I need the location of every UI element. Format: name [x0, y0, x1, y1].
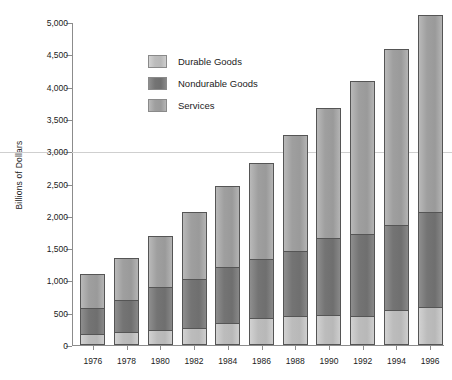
x-axis-tick-mark	[329, 346, 330, 350]
y-axis-tick-label: 3,500	[47, 115, 68, 125]
x-axis-tick-label: 1982	[185, 356, 204, 366]
bar-group[interactable]	[114, 259, 139, 345]
x-axis-tick-label: 1996	[421, 356, 440, 366]
bar-group[interactable]	[80, 275, 105, 345]
bar-segment[interactable]	[80, 274, 105, 309]
x-axis-tick-label: 1978	[117, 356, 136, 366]
stacked-bar-chart: Billions of Dollars 5,0004,5004,0003,500…	[0, 0, 452, 380]
x-axis-tick-mark	[262, 346, 263, 350]
x-axis-tick-mark	[396, 346, 397, 350]
y-axis-title: Billions of Dollars	[8, 110, 28, 240]
y-axis-tick-label: 1,000	[47, 276, 68, 286]
legend-swatch	[148, 55, 167, 68]
x-axis-tick-mark	[93, 346, 94, 350]
x-axis-tick-label: 1990	[319, 356, 338, 366]
bar-segment[interactable]	[148, 330, 173, 345]
x-axis-tick-label: 1992	[353, 356, 372, 366]
bar-segment[interactable]	[316, 315, 341, 345]
y-axis-tick-label: 0	[63, 341, 68, 351]
x-axis-tick-mark	[194, 346, 195, 350]
y-axis-title-label: Billions of Dollars	[13, 141, 23, 210]
bar-segment[interactable]	[384, 49, 409, 225]
x-axis-line	[72, 345, 444, 346]
legend-item[interactable]: Nondurable Goods	[148, 72, 258, 94]
x-axis-tick-label: 1980	[151, 356, 170, 366]
bar-group[interactable]	[384, 50, 409, 345]
x-axis-tick-label: 1984	[218, 356, 237, 366]
legend-item-label: Nondurable Goods	[178, 78, 258, 89]
x-axis-tick-label: 1986	[252, 356, 271, 366]
bar-segment[interactable]	[283, 316, 308, 345]
y-axis-tick-label: 1,500	[47, 244, 68, 254]
bar-segment[interactable]	[182, 279, 207, 329]
bar-group[interactable]	[182, 213, 207, 345]
bar-segment[interactable]	[350, 316, 375, 345]
y-axis-tick-label: 4,000	[47, 83, 68, 93]
bar-segment[interactable]	[350, 234, 375, 317]
bar-segment[interactable]	[215, 186, 240, 268]
legend-item[interactable]: Services	[148, 94, 258, 116]
x-axis-tick-mark	[430, 346, 431, 350]
bar-segment[interactable]	[80, 308, 105, 335]
bar-segment[interactable]	[249, 318, 274, 345]
legend-item-label: Durable Goods	[178, 56, 242, 67]
bar-segment[interactable]	[114, 332, 139, 345]
y-axis-tick-label: 5,000	[47, 18, 68, 28]
bar-group[interactable]	[215, 187, 240, 345]
bar-segment[interactable]	[182, 328, 207, 345]
bar-group[interactable]	[148, 237, 173, 345]
bar-segment[interactable]	[80, 334, 105, 345]
gridline-extension-right	[444, 152, 452, 153]
plot-area: 5,0004,5004,0003,5003,0002,5002,0001,500…	[72, 23, 444, 346]
bar-segment[interactable]	[148, 236, 173, 288]
x-axis-tick-label: 1994	[387, 356, 406, 366]
x-axis-tick-mark	[127, 346, 128, 350]
bar-segment[interactable]	[249, 259, 274, 319]
bar-segment[interactable]	[316, 238, 341, 316]
bars-layer	[73, 23, 444, 345]
chart-legend: Durable GoodsNondurable GoodsServices	[148, 50, 258, 116]
bar-segment[interactable]	[418, 212, 443, 308]
bar-segment[interactable]	[283, 135, 308, 252]
bar-segment[interactable]	[114, 258, 139, 301]
x-axis-tick-label: 1988	[286, 356, 305, 366]
bar-segment[interactable]	[384, 225, 409, 311]
bar-segment[interactable]	[215, 323, 240, 345]
bar-segment[interactable]	[283, 251, 308, 317]
legend-swatch	[148, 99, 167, 112]
bar-segment[interactable]	[114, 300, 139, 333]
y-axis-tick-label: 2,500	[47, 180, 68, 190]
y-axis-tick-label: 500	[54, 309, 68, 319]
bar-group[interactable]	[418, 16, 443, 345]
legend-item[interactable]: Durable Goods	[148, 50, 258, 72]
bar-segment[interactable]	[182, 212, 207, 280]
bar-group[interactable]	[350, 82, 375, 345]
bar-segment[interactable]	[148, 287, 173, 331]
x-axis-tick-mark	[160, 346, 161, 350]
x-axis-tick-mark	[228, 346, 229, 350]
y-axis-tick-label: 2,000	[47, 212, 68, 222]
bar-segment[interactable]	[418, 307, 443, 345]
bar-group[interactable]	[249, 164, 274, 345]
bar-segment[interactable]	[350, 81, 375, 234]
bar-segment[interactable]	[418, 15, 443, 213]
y-axis-tick-label: 4,500	[47, 50, 68, 60]
bar-segment[interactable]	[316, 108, 341, 239]
y-axis-tick-label: 3,000	[47, 147, 68, 157]
bar-segment[interactable]	[249, 163, 274, 260]
legend-item-label: Services	[178, 100, 214, 111]
bar-group[interactable]	[316, 109, 341, 345]
bar-segment[interactable]	[215, 267, 240, 324]
x-axis-tick-label: 1976	[83, 356, 102, 366]
legend-swatch	[148, 77, 167, 90]
bar-segment[interactable]	[384, 310, 409, 345]
bar-group[interactable]	[283, 136, 308, 345]
x-axis-tick-mark	[295, 346, 296, 350]
x-axis-tick-mark	[363, 346, 364, 350]
